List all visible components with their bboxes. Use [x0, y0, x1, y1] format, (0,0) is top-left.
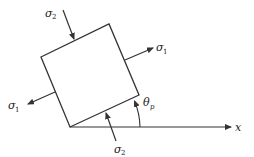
svg-text:p: p	[150, 103, 155, 111]
sigma1-left-label: σ 1	[8, 99, 19, 114]
svg-text:1: 1	[15, 106, 19, 114]
x-axis-label: x	[235, 121, 242, 134]
svg-text:2: 2	[52, 13, 56, 21]
sigma2-top-arrow	[63, 10, 74, 39]
theta-p-arc-arrow	[135, 101, 141, 127]
sigma1-right-arrow	[125, 48, 153, 60]
stress-element-square	[41, 24, 139, 127]
svg-text:2: 2	[121, 149, 125, 157]
stress-element-diagram: x θ p σ 1 σ 1 σ 2 σ 2	[0, 0, 254, 157]
sigma1-right-label: σ 1	[156, 41, 167, 56]
svg-text:1: 1	[163, 48, 167, 56]
theta-p-label: θ p	[143, 96, 155, 111]
svg-text:θ: θ	[143, 96, 150, 109]
sigma1-left-arrow	[28, 92, 55, 104]
sigma2-top-label: σ 2	[45, 7, 56, 21]
sigma2-bottom-label: σ 2	[114, 143, 125, 157]
